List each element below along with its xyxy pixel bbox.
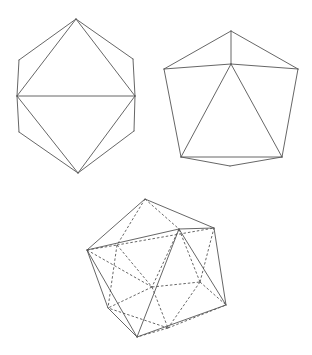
solid-edge bbox=[87, 250, 108, 308]
solid-edge bbox=[133, 59, 135, 96]
dashed-edge bbox=[179, 229, 200, 282]
dashed-edge bbox=[152, 282, 200, 287]
solid-edge bbox=[214, 228, 226, 305]
solid-edge bbox=[181, 157, 230, 166]
solid-edge bbox=[179, 229, 226, 305]
dashed-edge bbox=[117, 228, 214, 245]
solid-edge bbox=[164, 69, 181, 157]
dashed-edge bbox=[145, 199, 179, 229]
solid-edge bbox=[78, 96, 135, 173]
dashed-edge bbox=[87, 250, 152, 287]
solid-edge bbox=[17, 96, 78, 173]
solid-edge bbox=[231, 64, 282, 157]
polyhedra-figure bbox=[0, 0, 312, 355]
solid-edge bbox=[164, 64, 231, 69]
pentagonal-pyramid-drawing bbox=[164, 31, 298, 166]
solid-edge bbox=[19, 132, 78, 173]
solid-edge bbox=[87, 250, 137, 337]
solid-edge bbox=[137, 305, 226, 337]
solid-edge bbox=[164, 31, 231, 69]
solid-edge bbox=[87, 229, 179, 250]
solid-edge bbox=[17, 96, 19, 132]
icosahedron-drawing bbox=[87, 199, 226, 337]
solid-edge bbox=[17, 60, 19, 96]
solid-edge bbox=[76, 19, 133, 59]
solid-edge bbox=[78, 131, 134, 173]
solid-edge bbox=[145, 199, 214, 228]
solid-edge bbox=[282, 69, 298, 157]
octahedron-drawing bbox=[17, 19, 135, 173]
solid-edge bbox=[17, 19, 76, 96]
solid-edge bbox=[179, 228, 214, 229]
dashed-edge bbox=[168, 282, 200, 328]
dashed-edge bbox=[152, 229, 179, 287]
solid-edge bbox=[134, 96, 135, 131]
solid-edge bbox=[231, 64, 298, 69]
solid-edge bbox=[19, 19, 76, 60]
solid-edge bbox=[230, 157, 282, 166]
dashed-edge bbox=[200, 282, 226, 305]
solid-edge bbox=[231, 31, 298, 69]
dashed-edge bbox=[108, 308, 168, 328]
dashed-edge bbox=[108, 245, 117, 308]
solid-edge bbox=[87, 199, 145, 250]
dashed-edge bbox=[117, 245, 152, 287]
solid-edge bbox=[181, 64, 231, 157]
solid-edge bbox=[76, 19, 135, 96]
